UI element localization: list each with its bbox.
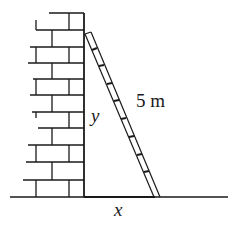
ladder-diagram: y 5 m x: [0, 0, 238, 225]
ladder-length-label: 5 m: [136, 90, 165, 111]
base-distance-label: x: [113, 199, 123, 220]
brick-wall: [23, 13, 84, 197]
height-label: y: [89, 105, 100, 126]
